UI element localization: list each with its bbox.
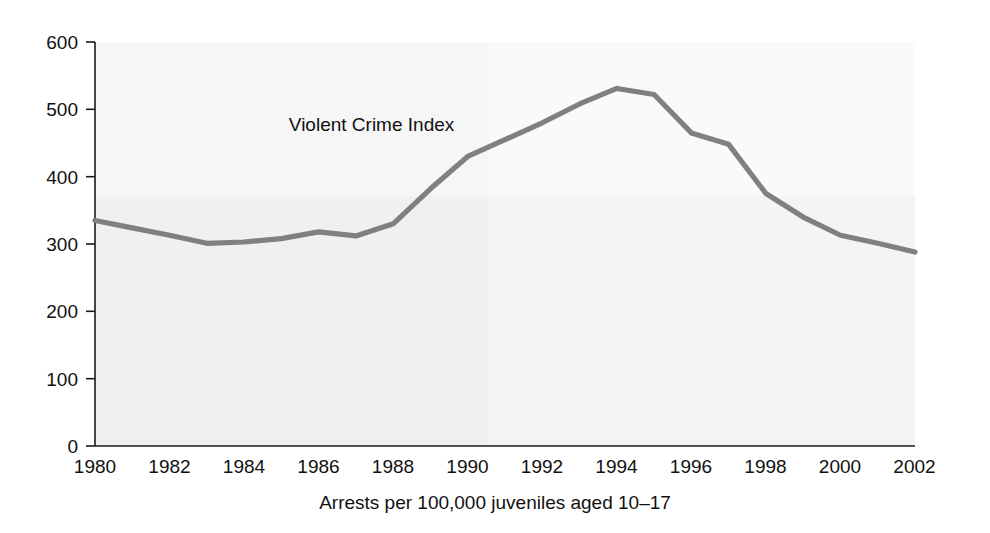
y-tick-marks — [86, 42, 95, 446]
y-tick-label-100: 100 — [46, 369, 78, 390]
y-axis-group: 600 500 400 300 200 100 0 — [46, 32, 95, 457]
y-tick-label-400: 400 — [46, 167, 78, 188]
violent-crime-index-chart-figure: 600 500 400 300 200 100 0 1980 1982 1984… — [0, 0, 990, 533]
x-axis-group: 1980 1982 1984 1986 1988 1990 1992 1994 … — [74, 446, 936, 477]
y-tick-label-200: 200 — [46, 301, 78, 322]
x-tick-label-1990: 1990 — [446, 456, 488, 477]
x-tick-label-1996: 1996 — [670, 456, 712, 477]
x-tick-label-1994: 1994 — [595, 456, 638, 477]
y-tick-label-600: 600 — [46, 32, 78, 53]
y-tick-label-0: 0 — [67, 436, 78, 457]
series-annotation-violent-crime-index: Violent Crime Index — [289, 114, 455, 135]
x-tick-label-1998: 1998 — [744, 456, 786, 477]
x-axis-caption: Arrests per 100,000 juveniles aged 10–17 — [319, 492, 671, 513]
y-tick-label-300: 300 — [46, 234, 78, 255]
x-tick-label-2000: 2000 — [819, 456, 861, 477]
x-tick-label-1982: 1982 — [148, 456, 190, 477]
chart-svg: 600 500 400 300 200 100 0 1980 1982 1984… — [0, 0, 990, 533]
y-tick-label-500: 500 — [46, 99, 78, 120]
x-tick-label-1980: 1980 — [74, 456, 116, 477]
x-tick-label-1992: 1992 — [521, 456, 563, 477]
x-tick-label-2002: 2002 — [893, 456, 935, 477]
x-tick-label-1986: 1986 — [297, 456, 339, 477]
data-line-violent-crime-index — [95, 88, 915, 252]
x-tick-label-1984: 1984 — [223, 456, 266, 477]
x-tick-label-1988: 1988 — [372, 456, 414, 477]
